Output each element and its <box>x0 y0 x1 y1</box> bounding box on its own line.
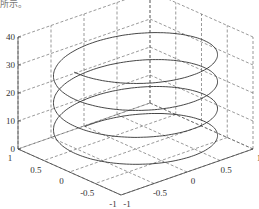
left-axis-tick-label: -0.5 <box>80 188 95 198</box>
right-axis-tick-label: -0.5 <box>153 188 168 198</box>
left-axis-tick-label: 1 <box>8 153 13 163</box>
z-tick-label: 30 <box>6 60 16 70</box>
tick-labels: 40302010010.50-0.5-1-1-0.500.51 <box>6 32 259 209</box>
right-axis-tick-label: 0 <box>191 176 196 186</box>
right-axis-tick-label: -1 <box>123 199 131 209</box>
left-axis-tick-label: -1 <box>109 199 117 209</box>
helix-curve <box>54 33 218 165</box>
left-axis-tick-label: 0 <box>59 176 64 186</box>
z-tick-label: 10 <box>6 116 16 126</box>
left-axis-tick-label: 0.5 <box>30 165 42 175</box>
z-tick-label: 20 <box>6 88 16 98</box>
z-tick-label: 40 <box>6 32 16 42</box>
right-axis-tick-label: 1 <box>257 153 259 163</box>
grid-lines <box>18 0 253 195</box>
right-axis-tick-label: 0.5 <box>220 165 232 175</box>
helix-plot: 40302010010.50-0.5-1-1-0.500.51 <box>0 0 259 209</box>
